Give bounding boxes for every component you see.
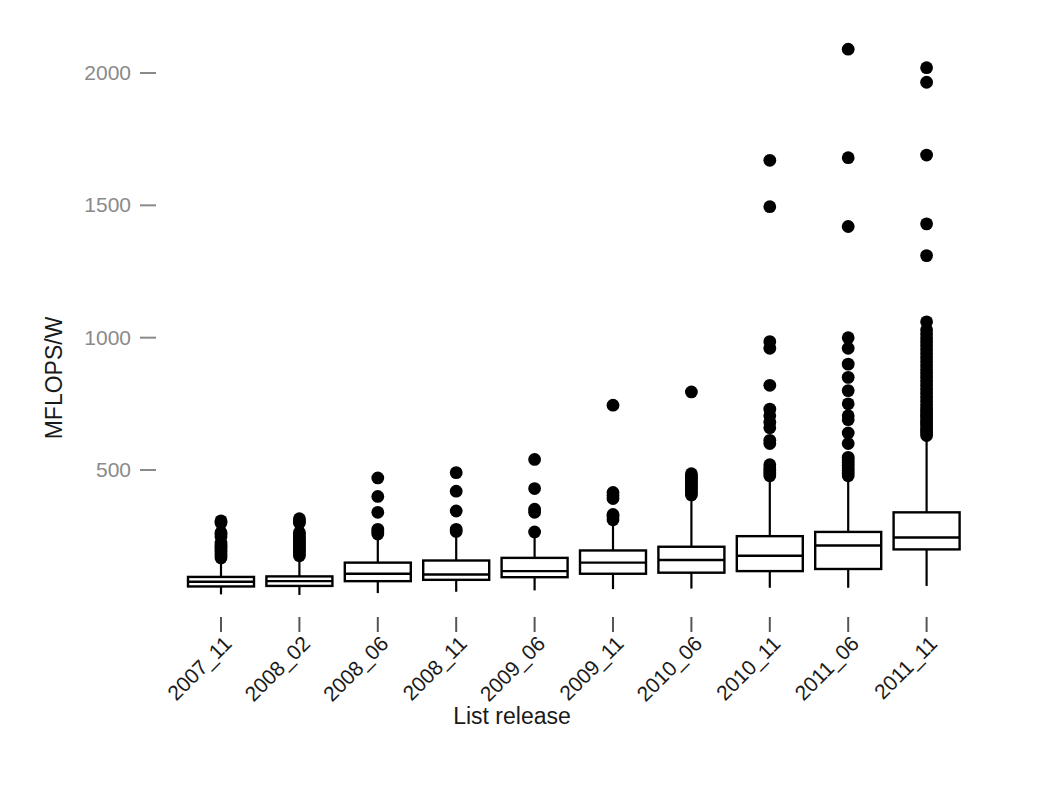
outlier-point <box>763 200 776 213</box>
box-iqr <box>815 532 881 569</box>
x-tick-label: 2008_06 <box>319 632 394 707</box>
outlier-point <box>763 434 776 447</box>
boxplot-group <box>815 43 881 588</box>
box-iqr <box>345 563 411 582</box>
outlier-point <box>842 409 855 422</box>
outlier-point <box>528 503 541 516</box>
outlier-point <box>528 526 541 539</box>
boxplot-group <box>345 472 411 594</box>
outlier-point <box>685 386 698 399</box>
outlier-point <box>371 506 384 519</box>
y-tick-label: 500 <box>96 458 131 481</box>
outlier-point <box>371 490 384 503</box>
boxplot-group <box>658 386 724 589</box>
outlier-point <box>450 505 463 518</box>
outlier-point <box>763 403 776 416</box>
x-tick-label: 2007_11 <box>163 632 237 706</box>
outlier-point <box>920 217 933 230</box>
x-tick-label: 2009_11 <box>555 632 629 706</box>
y-axis-title: MFLOPS/W <box>41 316 67 439</box>
x-tick-label: 2010_06 <box>632 632 707 707</box>
box-iqr <box>894 512 960 549</box>
x-tick-label: 2008_02 <box>240 632 315 707</box>
x-axis-title: List release <box>453 703 571 729</box>
outlier-point <box>763 458 776 471</box>
outlier-point <box>842 384 855 397</box>
outlier-point <box>842 220 855 233</box>
outlier-point <box>215 514 228 527</box>
box-iqr <box>423 561 489 580</box>
boxplot-group <box>580 399 646 589</box>
boxplot-canvas: 500100015002000 2007_112008_022008_06200… <box>0 0 1041 785</box>
outlier-point <box>607 399 620 412</box>
outlier-point <box>842 451 855 464</box>
boxplot-group <box>423 466 489 591</box>
outlier-point <box>842 331 855 344</box>
outlier-point <box>920 315 933 328</box>
outlier-point <box>842 43 855 56</box>
outlier-point <box>920 61 933 74</box>
boxplot-group <box>737 154 803 588</box>
y-axis: 500100015002000 <box>84 61 156 481</box>
outlier-point <box>685 467 698 480</box>
outlier-point <box>920 149 933 162</box>
y-tick-label: 1500 <box>84 193 131 216</box>
outlier-point <box>920 249 933 262</box>
x-tick-label: 2009_06 <box>475 632 550 707</box>
outlier-point <box>450 466 463 479</box>
outlier-point <box>842 358 855 371</box>
outlier-point <box>293 512 306 525</box>
outlier-point <box>842 151 855 164</box>
x-axis: 2007_112008_022008_062008_112009_062009_… <box>163 617 942 706</box>
outlier-point <box>842 427 855 440</box>
boxplot-figure: 500100015002000 2007_112008_022008_06200… <box>0 0 1041 785</box>
boxplot-group <box>188 514 254 594</box>
outlier-point <box>450 523 463 536</box>
boxplot-group <box>894 61 960 586</box>
outlier-point <box>920 76 933 89</box>
x-tick-label: 2010_11 <box>712 632 786 706</box>
y-tick-label: 1000 <box>84 326 131 349</box>
outlier-point <box>842 397 855 410</box>
x-tick-label: 2011_06 <box>790 632 864 706</box>
boxplot-group <box>502 453 568 590</box>
outlier-point <box>763 379 776 392</box>
box-iqr <box>502 558 568 577</box>
outlier-point <box>371 523 384 536</box>
x-tick-label: 2011_11 <box>870 632 943 705</box>
box-iqr <box>737 536 803 571</box>
outlier-point <box>607 508 620 521</box>
outlier-point <box>450 485 463 498</box>
y-tick-label: 2000 <box>84 61 131 84</box>
outlier-point <box>607 486 620 499</box>
outlier-point <box>371 472 384 485</box>
outlier-point <box>528 482 541 495</box>
outlier-point <box>763 154 776 167</box>
outlier-point <box>842 371 855 384</box>
outlier-point <box>528 453 541 466</box>
box-series <box>188 43 960 595</box>
boxplot-group <box>266 512 332 595</box>
x-tick-label: 2008_11 <box>398 632 472 706</box>
outlier-point <box>763 335 776 348</box>
